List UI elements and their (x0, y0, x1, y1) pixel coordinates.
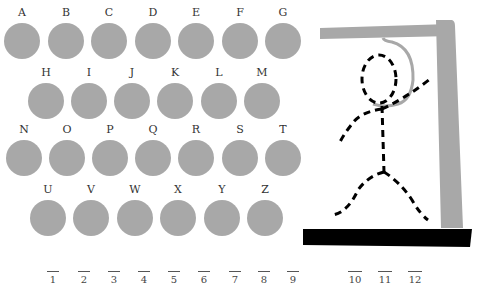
slot-number: 11 (379, 274, 392, 285)
slot-number: 2 (81, 274, 87, 285)
slot-3: 3 (108, 274, 120, 285)
slot-number: 12 (409, 274, 422, 285)
figure-left-arm (340, 109, 382, 142)
figure-head (362, 55, 396, 103)
slot-1: 1 (47, 274, 59, 285)
slot-number: 4 (141, 274, 147, 285)
slot-number: 3 (111, 274, 117, 285)
slot-9: 9 (287, 274, 299, 285)
slot-4: 4 (138, 274, 150, 285)
slot-10: 10 (348, 274, 362, 285)
figure-right-leg (384, 172, 428, 220)
gallows-beam (320, 24, 452, 39)
figure-left-leg (333, 172, 384, 215)
slot-number: 5 (171, 274, 177, 285)
slot-8: 8 (258, 274, 270, 285)
slot-number: 1 (50, 274, 56, 285)
slot-number: 7 (232, 274, 238, 285)
figure-body (382, 106, 384, 172)
slot-11: 11 (378, 274, 392, 285)
ground-base (303, 229, 472, 247)
hangman-drawing (0, 0, 477, 292)
slot-5: 5 (168, 274, 180, 285)
slot-7: 7 (229, 274, 241, 285)
slot-number: 10 (349, 274, 362, 285)
gallows-post (436, 20, 463, 228)
slot-number: 8 (261, 274, 267, 285)
slot-number: 9 (290, 274, 296, 285)
slot-number: 6 (201, 274, 207, 285)
slot-6: 6 (198, 274, 210, 285)
slot-12: 12 (408, 274, 422, 285)
slot-2: 2 (78, 274, 90, 285)
